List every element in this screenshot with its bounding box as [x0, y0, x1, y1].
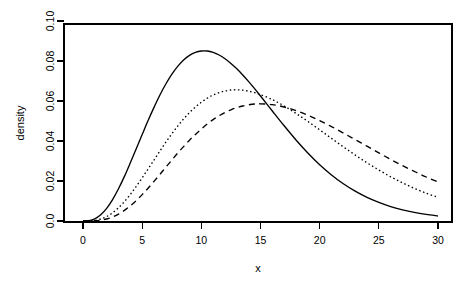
- x-tick-label: 10: [195, 234, 207, 246]
- x-tick-label: 30: [432, 234, 444, 246]
- x-tick-label: 0: [80, 234, 86, 246]
- y-axis-title: density: [14, 105, 26, 140]
- x-axis: 051015202530: [80, 222, 444, 246]
- x-tick-label: 15: [255, 234, 267, 246]
- plot-frame: [64, 24, 452, 222]
- y-tick-label: 0.0: [44, 214, 56, 229]
- y-axis: 0.00.020.040.060.080.10: [44, 11, 64, 229]
- chart-canvas: 051015202530 0.00.020.040.060.080.10 x d…: [0, 0, 476, 284]
- density-curve-dashed: [83, 104, 438, 221]
- x-tick-label: 5: [139, 234, 145, 246]
- y-tick-label: 0.04: [44, 131, 56, 152]
- plot-border: [64, 24, 452, 222]
- y-tick-label: 0.08: [44, 51, 56, 72]
- density-curve-solid: [83, 51, 438, 221]
- y-tick-label: 0.10: [44, 11, 56, 32]
- x-tick-label: 20: [314, 234, 326, 246]
- density-curves: [83, 51, 438, 221]
- y-tick-label: 0.06: [44, 91, 56, 112]
- density-plot-figure: 051015202530 0.00.020.040.060.080.10 x d…: [0, 0, 476, 284]
- x-tick-label: 25: [373, 234, 385, 246]
- y-tick-label: 0.02: [44, 171, 56, 192]
- x-axis-title: x: [255, 262, 261, 274]
